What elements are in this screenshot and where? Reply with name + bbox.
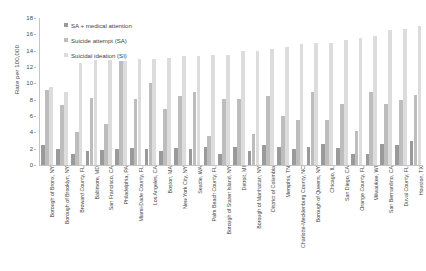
x-axis-tick-label: Boston, MA bbox=[167, 166, 173, 193]
y-axis-tick-mark bbox=[34, 34, 36, 35]
legend-swatch-icon bbox=[64, 53, 68, 57]
x-axis-tick-label: Borough of Queens, NY bbox=[315, 166, 321, 222]
y-axis-tick-labels: 024681012141618 bbox=[16, 18, 36, 166]
y-axis-tick-mark bbox=[34, 149, 36, 150]
x-axis-tick-label: San Diego, CA bbox=[344, 166, 350, 201]
x-axis-tick-label: San Bernardino, CA bbox=[388, 166, 394, 213]
x-axis-tick-label: Houston, TX bbox=[418, 166, 424, 195]
bar bbox=[123, 61, 127, 165]
legend-label: SA + medical attention bbox=[71, 22, 132, 29]
x-axis-tick-label: Philadelphia, PA bbox=[123, 166, 129, 204]
bar-group bbox=[395, 18, 407, 165]
y-axis-tick-10: 10 bbox=[26, 80, 33, 86]
bar-chart: Rate per 100,000 024681012141618 Borough… bbox=[0, 0, 426, 271]
y-axis-tick-18: 18 bbox=[26, 15, 33, 21]
x-axis-tick-label: Baltimore, MD bbox=[94, 166, 100, 200]
x-axis-tick-label: Borough of Staten Island, NY bbox=[226, 166, 232, 235]
x-axis-tick-label: Broward County, FL bbox=[79, 166, 85, 213]
x-axis-tick-label: Borough of Bronx, NY bbox=[49, 166, 55, 218]
x-axis-tick-label: Orange County, FL bbox=[359, 166, 365, 211]
x-axis-tick-label: Chicago, IL bbox=[329, 166, 335, 193]
bar-group bbox=[233, 18, 245, 165]
x-axis-tick-label: Palm Beach County, FL bbox=[211, 166, 217, 222]
bar bbox=[241, 51, 245, 165]
bar bbox=[270, 49, 274, 165]
bar bbox=[418, 26, 422, 165]
legend-item[interactable]: Suicidal ideation (SI) bbox=[64, 48, 214, 62]
bar bbox=[256, 51, 260, 165]
legend-item[interactable]: Suicide attempt (SA) bbox=[64, 33, 214, 47]
bar bbox=[94, 60, 98, 165]
bar bbox=[108, 60, 112, 165]
y-axis-tick-8: 8 bbox=[30, 97, 33, 103]
x-axis-tick-labels: Borough of Bronx, NYBorough of Brooklyn,… bbox=[40, 166, 423, 270]
bar bbox=[49, 87, 53, 165]
x-axis-tick-label: Borough of Manhattan, NY bbox=[256, 166, 262, 229]
bar-group bbox=[248, 18, 260, 165]
x-axis-tick-label: Detroit, MI bbox=[241, 166, 247, 190]
bar-group bbox=[218, 18, 230, 165]
bar-group bbox=[410, 18, 422, 165]
bar bbox=[359, 38, 363, 165]
y-axis-tick-14: 14 bbox=[26, 48, 33, 54]
bar bbox=[329, 43, 333, 166]
bar bbox=[79, 63, 83, 165]
y-axis-tick-mark bbox=[34, 51, 36, 52]
y-axis-tick-16: 16 bbox=[26, 31, 33, 37]
bar bbox=[182, 56, 186, 165]
y-axis-tick-mark bbox=[34, 100, 36, 101]
y-axis-tick-mark bbox=[34, 67, 36, 68]
x-axis-tick-label: Los Angeles, CA bbox=[152, 166, 158, 205]
bar bbox=[344, 40, 348, 165]
bar-group bbox=[41, 18, 53, 165]
y-axis-tick-mark bbox=[34, 18, 36, 19]
legend-label: Suicidal ideation (SI) bbox=[71, 52, 127, 59]
bar-group bbox=[366, 18, 378, 165]
y-axis-tick-mark bbox=[34, 116, 36, 117]
bar-group bbox=[307, 18, 319, 165]
legend-label: Suicide attempt (SA) bbox=[71, 37, 127, 44]
legend-item[interactable]: SA + medical attention bbox=[64, 18, 214, 32]
bar-group bbox=[262, 18, 274, 165]
x-axis-tick-label: New York City, NY bbox=[182, 166, 188, 209]
bar bbox=[314, 43, 318, 166]
bar-group bbox=[380, 18, 392, 165]
x-axis-tick-label: Duval County, FL bbox=[403, 166, 409, 207]
x-axis-tick-label: Memphis, TN bbox=[285, 166, 291, 197]
y-axis-tick-mark bbox=[34, 83, 36, 84]
bar-group bbox=[351, 18, 363, 165]
bar bbox=[226, 55, 230, 165]
x-axis-tick-label: Borough of Brooklyn, NY bbox=[64, 166, 70, 224]
y-axis-tick-0: 0 bbox=[30, 162, 33, 168]
bar bbox=[152, 59, 156, 165]
bar-group bbox=[336, 18, 348, 165]
bar bbox=[138, 59, 142, 165]
bar bbox=[300, 44, 304, 165]
bar bbox=[285, 47, 289, 165]
bar-group bbox=[321, 18, 333, 165]
chart-legend: SA + medical attentionSuicide attempt (S… bbox=[64, 18, 214, 63]
bar bbox=[388, 30, 392, 165]
x-axis-tick-label: San Francisco, CA bbox=[108, 166, 114, 210]
legend-swatch-icon bbox=[64, 38, 68, 42]
y-axis-tick-12: 12 bbox=[26, 64, 33, 70]
legend-swatch-icon bbox=[64, 23, 68, 27]
x-axis-tick-label: Milwaukee, WI bbox=[373, 166, 379, 200]
bar-group bbox=[292, 18, 304, 165]
bar bbox=[167, 58, 171, 165]
bar bbox=[373, 36, 377, 165]
bar bbox=[403, 29, 407, 165]
bar-group bbox=[277, 18, 289, 165]
x-axis-tick-label: Charlotte-Mecklenburg County, NC bbox=[300, 166, 306, 248]
y-axis-tick-4: 4 bbox=[30, 129, 33, 135]
bar bbox=[211, 55, 215, 165]
y-axis-tick-6: 6 bbox=[30, 113, 33, 119]
x-axis-tick-label: Seattle, WA bbox=[197, 166, 203, 194]
y-axis-tick-mark bbox=[34, 165, 36, 166]
y-axis-tick-2: 2 bbox=[30, 146, 33, 152]
x-axis-tick-label: District of Columbia bbox=[270, 166, 276, 212]
y-axis-tick-mark bbox=[34, 132, 36, 133]
bar bbox=[64, 92, 68, 166]
bar bbox=[197, 56, 201, 165]
x-axis-tick-label: Miami-Dade County, FL bbox=[138, 166, 144, 222]
